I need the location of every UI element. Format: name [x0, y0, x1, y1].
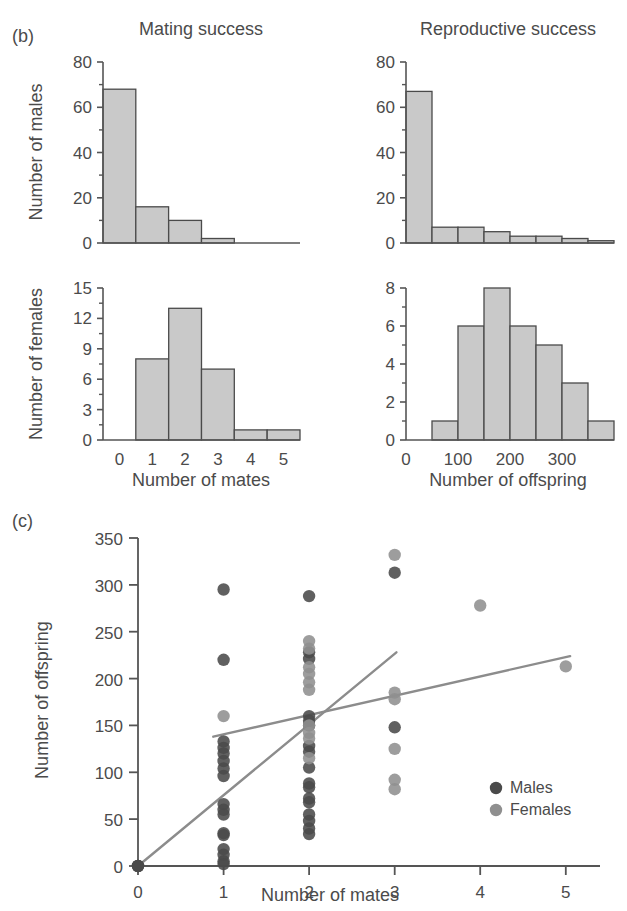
data-point: [303, 684, 315, 696]
y-tick-label: 0: [386, 234, 395, 253]
data-point: [217, 858, 229, 870]
histogram-bar: [169, 220, 202, 243]
x-tick-label: 5: [279, 450, 288, 469]
legend: MalesFemales: [490, 779, 572, 818]
histogram-bar: [267, 430, 300, 440]
x-tick-label: 100: [444, 450, 472, 469]
data-point: [217, 583, 229, 595]
histogram-bar: [432, 421, 458, 440]
data-point: [389, 743, 401, 755]
chart-females-mating-success: [97, 288, 300, 440]
data-point: [389, 721, 401, 733]
x-tick-label: 300: [548, 450, 576, 469]
data-point: [389, 567, 401, 579]
histogram-bar: [432, 227, 458, 243]
chart-males-reproductive-success: [400, 62, 614, 243]
series-females: [217, 549, 572, 796]
y-axis-label-males: Number of males: [26, 83, 46, 220]
figure-container: 0204060800204060800369121501234502468010…: [0, 0, 627, 911]
series-males: [132, 567, 401, 873]
legend-marker-males: [490, 782, 502, 794]
data-point: [217, 770, 229, 782]
y-tick-label: 60: [376, 98, 395, 117]
y-tick-label: 9: [83, 340, 92, 359]
data-point: [303, 732, 315, 744]
y-tick-label: 300: [95, 577, 123, 596]
x-tick-label: 4: [475, 883, 484, 902]
chart-offspring-vs-mates: MalesFemales: [129, 538, 600, 875]
histogram-bar: [136, 359, 169, 440]
y-tick-label: 80: [73, 53, 92, 72]
data-point: [217, 808, 229, 820]
histogram-bar: [234, 430, 267, 440]
y-tick-label: 6: [83, 370, 92, 389]
x-tick-label: 4: [246, 450, 255, 469]
panel-title-reproductive-success: Reproductive success: [420, 19, 596, 39]
chart-males-mating-success: [97, 62, 300, 243]
panel-label-c: (c): [12, 511, 33, 531]
histogram-bar: [458, 227, 484, 243]
x-tick-label: 1: [219, 883, 228, 902]
data-point: [303, 796, 315, 808]
legend-marker-females: [490, 804, 502, 816]
figure-svg: 0204060800204060800369121501234502468010…: [0, 0, 627, 911]
x-tick-label: 0: [133, 883, 142, 902]
data-point: [303, 828, 315, 840]
y-tick-label: 80: [376, 53, 395, 72]
panel-title-mating-success: Mating success: [139, 19, 263, 39]
y-tick-label: 50: [104, 811, 123, 830]
y-tick-label: 60: [73, 98, 92, 117]
histogram-bar: [169, 308, 202, 440]
histogram-bar: [136, 207, 169, 243]
data-point: [389, 549, 401, 561]
data-point: [303, 752, 315, 764]
y-tick-label: 0: [114, 858, 123, 877]
y-tick-label: 200: [95, 671, 123, 690]
histogram-bar: [458, 326, 484, 440]
x-axis-label-mates: Number of mates: [132, 470, 270, 490]
x-tick-label: 1: [148, 450, 157, 469]
x-tick-label: 200: [496, 450, 524, 469]
legend-label-males: Males: [510, 779, 553, 796]
histogram-bar: [510, 236, 536, 243]
y-tick-label: 0: [386, 431, 395, 450]
x-tick-label: 0: [401, 450, 410, 469]
y-tick-label: 15: [73, 279, 92, 298]
histogram-bar: [588, 421, 614, 440]
x-axis-label-mates-c: Number of mates: [261, 885, 399, 905]
data-point: [389, 783, 401, 795]
trendline-males: [138, 652, 396, 866]
data-point: [560, 660, 572, 672]
y-tick-label: 40: [376, 144, 395, 163]
chart-females-reproductive-success: [400, 288, 614, 440]
x-tick-label: 5: [561, 883, 570, 902]
data-point: [303, 781, 315, 793]
histogram-bar: [484, 232, 510, 243]
histogram-bar: [510, 326, 536, 440]
y-tick-label: 6: [386, 317, 395, 336]
y-tick-label: 40: [73, 144, 92, 163]
panel-label-b: (b): [12, 26, 34, 46]
y-tick-label: 20: [73, 189, 92, 208]
data-point: [217, 654, 229, 666]
y-axis-label-females: Number of females: [26, 288, 46, 440]
y-tick-label: 8: [386, 279, 395, 298]
x-tick-label: 3: [213, 450, 222, 469]
histogram-bar: [562, 383, 588, 440]
y-axis-label-offspring-c: Number of offspring: [32, 621, 52, 779]
y-tick-label: 12: [73, 309, 92, 328]
y-tick-label: 3: [83, 401, 92, 420]
y-tick-label: 0: [83, 431, 92, 450]
y-tick-label: 20: [376, 189, 395, 208]
data-point: [389, 693, 401, 705]
histogram-bar: [202, 369, 235, 440]
legend-label-females: Females: [510, 801, 571, 818]
y-tick-label: 4: [386, 355, 395, 374]
data-point: [217, 710, 229, 722]
data-point: [217, 829, 229, 841]
y-tick-label: 250: [95, 624, 123, 643]
histogram-bar: [406, 91, 432, 243]
x-tick-label: 2: [180, 450, 189, 469]
x-tick-label: 0: [115, 450, 124, 469]
histogram-bar: [103, 89, 136, 243]
